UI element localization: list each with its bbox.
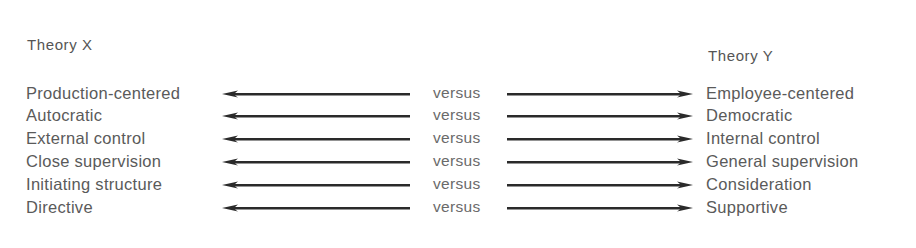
versus-label: versus [433, 128, 480, 148]
comparison-row: Close supervision versus General supervi… [0, 151, 916, 173]
theory-y-trait: Supportive [706, 197, 788, 217]
comparison-row: Directive versus Supportive [0, 197, 916, 219]
comparison-row: External control versus Internal control [0, 128, 916, 150]
versus-label: versus [433, 197, 480, 217]
left-arrow-icon [222, 178, 410, 192]
left-arrow-icon [222, 201, 410, 215]
left-arrow-icon [222, 87, 410, 101]
theory-x-trait: Production-centered [26, 83, 180, 103]
comparison-row: Initiating structure versus Consideratio… [0, 174, 916, 196]
versus-label: versus [433, 83, 480, 103]
right-arrow-icon [507, 178, 693, 192]
theory-y-trait: Democratic [706, 105, 792, 125]
versus-label: versus [433, 105, 480, 125]
right-arrow-icon [507, 87, 693, 101]
theory-x-trait: Initiating structure [26, 174, 162, 194]
right-arrow-icon [507, 132, 693, 146]
theory-y-trait: Internal control [706, 128, 820, 148]
theory-x-trait: Close supervision [26, 151, 161, 171]
right-arrow-icon [507, 155, 693, 169]
left-arrow-icon [222, 155, 410, 169]
left-arrow-icon [222, 109, 410, 123]
theory-x-trait: External control [26, 128, 145, 148]
comparison-row: Production-centered versus Employee-cent… [0, 83, 916, 105]
theory-x-heading: Theory X [27, 36, 93, 53]
comparison-row: Autocratic versus Democratic [0, 105, 916, 127]
right-arrow-icon [507, 201, 693, 215]
theory-y-trait: Employee-centered [706, 83, 854, 103]
left-arrow-icon [222, 132, 410, 146]
theory-x-trait: Directive [26, 197, 93, 217]
theory-y-heading: Theory Y [708, 47, 773, 64]
versus-label: versus [433, 151, 480, 171]
versus-label: versus [433, 174, 480, 194]
theory-y-trait: Consideration [706, 174, 812, 194]
theory-x-trait: Autocratic [26, 105, 102, 125]
theory-y-trait: General supervision [706, 151, 858, 171]
right-arrow-icon [507, 109, 693, 123]
